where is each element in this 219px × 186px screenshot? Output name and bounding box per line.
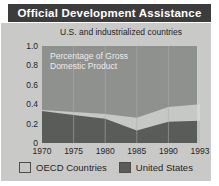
- chart-title-bar: Official Development Assistance: [8, 4, 211, 22]
- plot-area: Percentage of Gross Domestic Product: [42, 46, 200, 143]
- y-axis: 1.0 0.8 0.6 0.4 0.2 0: [1, 46, 38, 143]
- x-tick-label: 1980: [96, 146, 115, 156]
- plot-annotation: Percentage of Gross Domestic Product: [50, 51, 128, 71]
- y-tick-label: 1.0: [26, 41, 38, 51]
- chart-subtitle: U.S. and industrialized countries: [42, 27, 200, 37]
- x-axis: 1970 1975 1980 1985 1990 1993: [42, 146, 200, 157]
- legend-swatch-oecd-countries: [19, 162, 31, 173]
- y-tick-label: 0.2: [26, 119, 38, 129]
- legend-item-oecd-countries: OECD Countries: [19, 162, 107, 173]
- x-tick-label: 1970: [33, 146, 52, 156]
- y-tick-label: 0.4: [26, 99, 38, 109]
- x-tick-label: 1993: [191, 146, 210, 156]
- y-tick-label: 0.6: [26, 80, 38, 90]
- plot-annotation-line1: Percentage of Gross: [50, 51, 128, 61]
- chart-legend: OECD Countries United States: [1, 162, 211, 173]
- plot-annotation-line2: Domestic Product: [50, 61, 128, 71]
- legend-label-oecd-countries: OECD Countries: [36, 162, 107, 173]
- legend-swatch-united-states: [119, 162, 131, 173]
- legend-item-united-states: United States: [119, 162, 193, 173]
- y-tick-label: 0.8: [26, 60, 38, 70]
- legend-label-united-states: United States: [136, 162, 193, 173]
- x-tick-label: 1985: [127, 146, 146, 156]
- chart-panel: U.S. and industrialized countries 1.0 0.…: [1, 23, 211, 181]
- chart-title: Official Development Assistance: [17, 7, 201, 19]
- x-tick-label: 1990: [159, 146, 178, 156]
- x-tick-label: 1975: [64, 146, 83, 156]
